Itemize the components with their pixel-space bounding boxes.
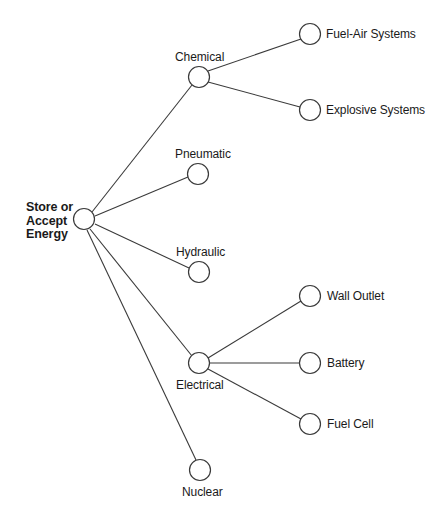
node-label-fuel-air-systems: Fuel-Air Systems: [326, 28, 416, 41]
node-circle-explosive-systems[interactable]: [300, 100, 321, 121]
node-label-nuclear: Nuclear: [182, 486, 223, 499]
edge-electrical-to-wall-outlet: [208, 301, 301, 358]
node-label-chemical: Chemical: [175, 51, 224, 64]
node-label-store-or-accept-energy: Store orAcceptEnergy: [26, 201, 73, 242]
edge-store-or-accept-energy-to-nuclear: [87, 230, 196, 460]
node-label-electrical: Electrical: [176, 379, 224, 392]
energy-function-tree-diagram: Store orAcceptEnergyChemicalFuel-Air Sys…: [0, 0, 448, 517]
node-label-battery: Battery: [327, 357, 364, 370]
node-label-hydraulic: Hydraulic: [176, 246, 225, 259]
node-label-line: Energy: [26, 228, 73, 242]
node-label-explosive-systems: Explosive Systems: [326, 104, 425, 117]
node-label-wall-outlet: Wall Outlet: [327, 290, 384, 303]
node-circle-pneumatic[interactable]: [188, 164, 209, 185]
node-label-line: Accept: [26, 215, 73, 229]
node-circle-hydraulic[interactable]: [189, 262, 210, 283]
edge-electrical-to-fuel-cell: [208, 369, 301, 419]
node-circle-fuel-air-systems[interactable]: [300, 24, 321, 45]
node-circle-fuel-cell[interactable]: [300, 414, 321, 435]
node-label-pneumatic: Pneumatic: [175, 148, 231, 161]
node-circle-battery[interactable]: [300, 353, 321, 374]
edge-store-or-accept-energy-to-pneumatic: [95, 177, 188, 216]
node-circle-chemical[interactable]: [189, 67, 210, 88]
node-label-line: Store or: [26, 201, 73, 215]
edge-store-or-accept-energy-to-hydraulic: [95, 224, 189, 268]
node-circle-wall-outlet[interactable]: [300, 286, 321, 307]
node-circle-electrical[interactable]: [189, 353, 210, 374]
node-circle-store-or-accept-energy[interactable]: [74, 209, 95, 230]
node-label-fuel-cell: Fuel Cell: [327, 418, 373, 431]
edge-chemical-to-explosive-systems: [208, 82, 300, 107]
node-circle-nuclear[interactable]: [190, 460, 211, 481]
